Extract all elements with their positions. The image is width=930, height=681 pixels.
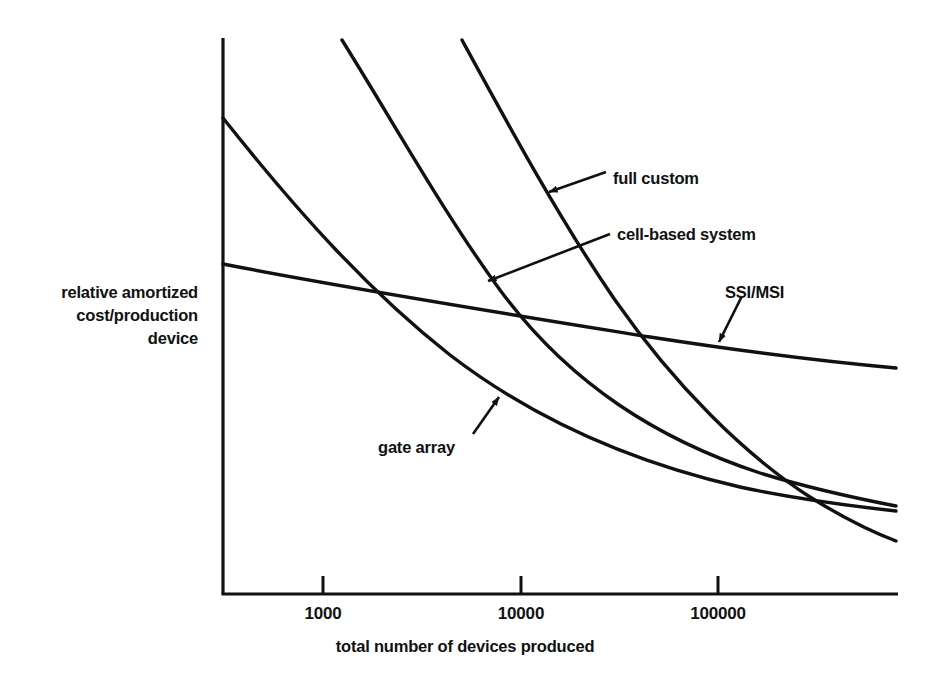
leader-gate-array [473, 397, 499, 434]
x-tick-label-10000: 10000 [498, 604, 544, 624]
y-axis-label: relative amortized cost/production devic… [22, 281, 198, 350]
series-label-ssi-msi: SSI/MSI [725, 283, 784, 302]
x-axis-ticks [323, 576, 718, 594]
series-label-gate-array: gate array [378, 438, 455, 457]
series-label-cell-based-system: cell-based system [617, 225, 756, 244]
x-axis-label: total number of devices produced [0, 637, 930, 656]
chart-figure: relative amortized cost/production devic… [0, 0, 930, 681]
x-tick-label-100000: 100000 [690, 604, 746, 624]
curve-full-custom [462, 40, 896, 541]
y-axis-label-line-3: device [22, 327, 198, 350]
curve-cell-based-system [342, 40, 896, 506]
y-axis-label-line-1: relative amortized [22, 281, 198, 304]
y-axis-label-line-2: cost/production [22, 304, 198, 327]
curve-gate-array [223, 118, 896, 511]
axis-lines [222, 38, 899, 594]
curve-ssi-msi [223, 264, 896, 368]
leader-ssi-msi [719, 296, 742, 342]
x-tick-label-1000: 1000 [304, 604, 341, 624]
series-label-full-custom: full custom [613, 169, 699, 188]
leader-full-custom [549, 172, 606, 192]
leader-cell-based-system [488, 234, 610, 281]
